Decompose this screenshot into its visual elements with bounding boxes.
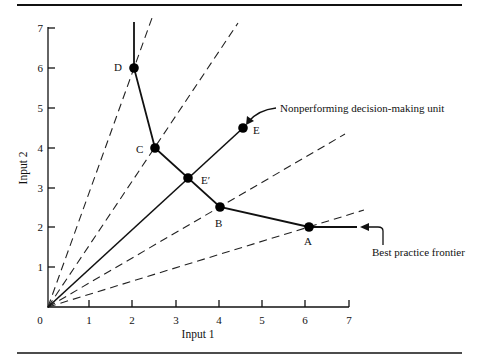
annotation-nonperforming: Nonperforming decision-making unit: [246, 102, 444, 125]
y-tick-2: 2: [38, 221, 44, 233]
x-tick-7: 7: [346, 314, 352, 326]
x-tick-5: 5: [259, 314, 265, 326]
x-tick-6: 6: [302, 314, 308, 326]
nonperforming-label: Nonperforming decision-making unit: [280, 102, 444, 114]
origin-label: 0: [37, 314, 43, 326]
x-tick-1: 1: [86, 314, 92, 326]
x-tick-4: 4: [216, 314, 222, 326]
y-tick-labels: 7 6 5 4 3 2 1: [38, 22, 44, 273]
point-B: [215, 202, 225, 212]
y-tick-4: 4: [38, 142, 44, 154]
ray-through-A: [48, 210, 364, 307]
arrowhead-icon: [360, 223, 369, 231]
ray-to-E: [48, 128, 243, 307]
y-axis-title: Input 2: [17, 151, 30, 184]
label-A: A: [304, 235, 312, 247]
y-tick-6: 6: [38, 62, 44, 74]
y-tick-1: 1: [38, 261, 44, 273]
x-tick-3: 3: [173, 314, 179, 326]
ray-through-B: [48, 134, 345, 307]
frontier-label: Best practice frontier: [372, 246, 465, 258]
point-E-prime: [183, 173, 193, 183]
label-B: B: [215, 217, 222, 229]
x-axis-title: Input 1: [182, 328, 215, 341]
y-tick-3: 3: [38, 182, 44, 194]
point-C: [150, 143, 160, 153]
y-tick-5: 5: [38, 102, 44, 114]
arrow-to-frontier: [367, 227, 383, 245]
x-tick-labels: 0 1 2 3 4 5 6 7: [37, 314, 352, 326]
label-E: E: [253, 124, 260, 136]
ray-through-C: [48, 23, 238, 307]
x-tick-2: 2: [129, 314, 135, 326]
dea-frontier-chart: 7 6 5 4 3 2 1 0 1 2 3 4 5 6 7 Input 1 In…: [0, 0, 477, 359]
point-A: [304, 222, 314, 232]
label-E-prime: E′: [201, 174, 210, 186]
point-D: [129, 63, 139, 73]
ray-through-D: [48, 18, 152, 307]
annotation-frontier: Best practice frontier: [360, 223, 465, 258]
label-D: D: [114, 61, 122, 73]
y-tick-7: 7: [38, 22, 44, 34]
label-C: C: [136, 143, 143, 155]
